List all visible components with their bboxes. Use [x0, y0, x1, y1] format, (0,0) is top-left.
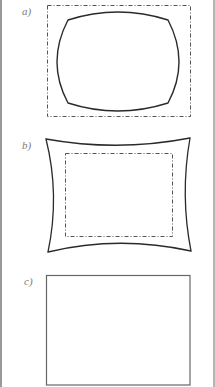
panel-c-rectangle [47, 276, 191, 386]
figure-drawing [0, 0, 215, 387]
panel-a [48, 6, 191, 117]
panel-b-pincushion-shape [46, 138, 191, 252]
panel-b [46, 138, 191, 252]
panel-c [47, 276, 191, 386]
panel-b-reference-frame [66, 154, 173, 237]
figure-frame: a) b) c) [0, 0, 215, 387]
panel-a-barrel-shape [57, 12, 179, 111]
